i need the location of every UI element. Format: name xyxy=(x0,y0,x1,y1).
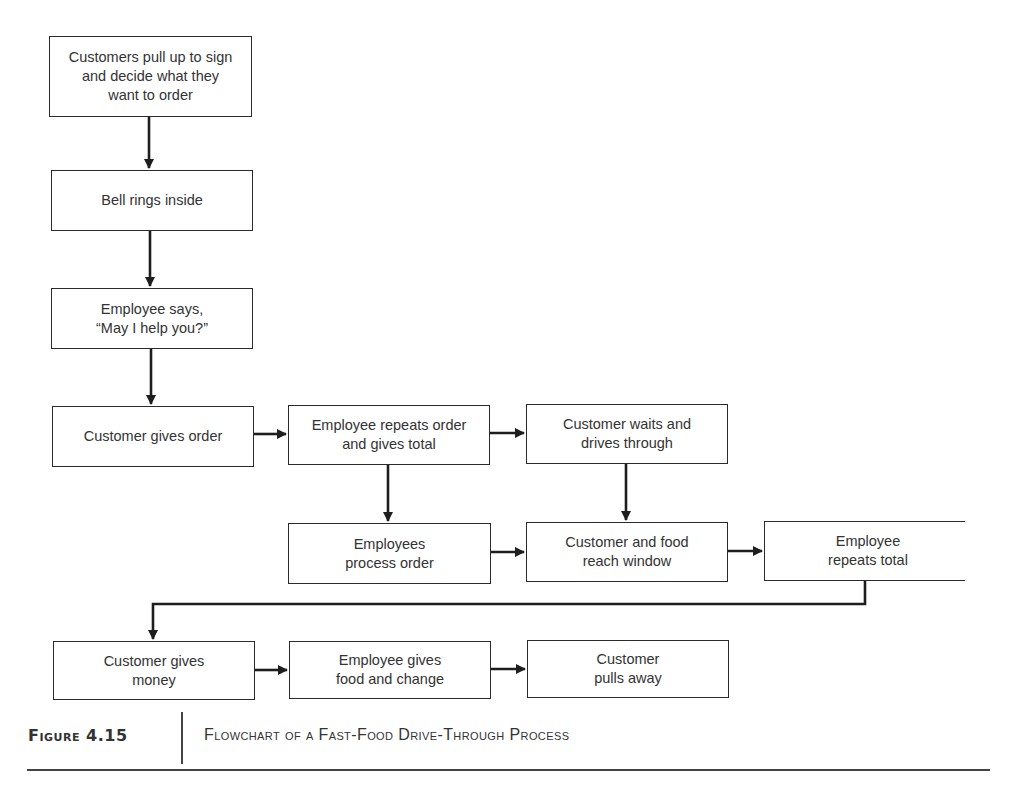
node-employee-repeats-order: Employee repeats order and gives total xyxy=(288,405,490,465)
arrow-n9-n10 xyxy=(153,580,865,639)
node-label: Bell rings inside xyxy=(101,191,203,210)
node-label: Employee says, “May I help you?” xyxy=(96,300,208,338)
node-employee-gives-food: Employee gives food and change xyxy=(289,641,491,699)
node-label: Customers pull up to sign and decide wha… xyxy=(69,48,233,105)
node-employees-process-order: Employees process order xyxy=(288,523,491,584)
node-customer-pulls-away: Customer pulls away xyxy=(527,640,729,698)
node-label: Employee gives food and change xyxy=(336,651,444,689)
node-label: Employee repeats total xyxy=(828,532,908,570)
node-label: Customer gives order xyxy=(84,427,223,446)
node-customers-pull-up: Customers pull up to sign and decide wha… xyxy=(49,36,252,117)
node-customer-gives-money: Customer gives money xyxy=(53,641,255,700)
node-customer-reaches-window: Customer and food reach window xyxy=(526,522,728,582)
figure-title: Flowchart of a Fast-Food Drive-Through P… xyxy=(204,726,569,744)
node-label: Employee repeats order and gives total xyxy=(312,416,467,454)
caption-divider xyxy=(181,712,183,764)
node-customer-waits: Customer waits and drives through xyxy=(526,404,728,464)
node-employee-greets: Employee says, “May I help you?” xyxy=(51,288,253,349)
node-label: Customer gives money xyxy=(104,652,205,690)
node-label: Customer pulls away xyxy=(594,650,662,688)
figure-label: Figure 4.15 xyxy=(28,726,128,745)
node-label: Customer and food reach window xyxy=(565,533,688,571)
node-customer-gives-order: Customer gives order xyxy=(52,406,254,467)
node-bell-rings: Bell rings inside xyxy=(51,170,253,231)
node-employee-repeats-total: Employee repeats total xyxy=(764,521,965,581)
flowchart-canvas: Customers pull up to sign and decide wha… xyxy=(0,0,1010,806)
node-label: Customer waits and drives through xyxy=(563,415,691,453)
node-label: Employees process order xyxy=(345,535,434,573)
caption-rule xyxy=(27,769,990,771)
figure-caption: Figure 4.15 Flowchart of a Fast-Food Dri… xyxy=(28,712,988,762)
